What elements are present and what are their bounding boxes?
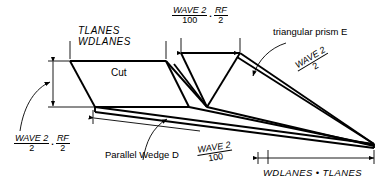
technical-diagram: TLANES WDLANES Cut triangular prism E Pa… [0,0,392,191]
expression-bottom-left: WAVE 2 2 . RF 2 [14,134,70,154]
frac-bl-first: WAVE 2 2 [14,134,49,154]
expression-bl-separator: . [51,138,54,149]
frac-top-first-den: 100 [172,16,207,25]
label-wdlanes-tlanes: WDLANES • TLANES [263,168,362,178]
frac-bl-second-den: 2 [56,144,70,153]
frac-top-second-den: 2 [214,16,228,25]
expression-top-separator: . [209,10,212,21]
frac-bl-second: RF 2 [56,134,70,154]
label-tlanes-line: TLANES [78,26,131,37]
label-parallel-wedge-text: Parallel Wedge D [105,149,179,160]
frac-bl-first-den: 2 [14,144,49,153]
label-tlanes: TLANES WDLANES [78,26,131,47]
label-parallel-wedge: Parallel Wedge D [105,150,179,160]
dim-line-wedge [94,118,200,131]
expression-top-center: WAVE 2 100 . RF 2 [172,6,228,26]
label-wdlanes-line: WDLANES [78,37,131,48]
frac-top-first: WAVE 2 100 [172,6,207,26]
frac-top-second: RF 2 [214,6,228,26]
cut-solid-left-edge [70,61,95,107]
leader-curve-left [20,82,50,131]
prism-right-face [207,53,240,107]
label-cut: Cut [111,68,127,79]
label-triangular-prism: triangular prism E [273,27,347,37]
